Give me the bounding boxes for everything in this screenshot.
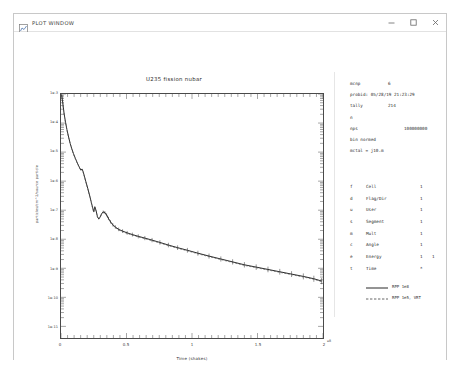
bin-table: fCell1dFlag/Dir1uUser1sSegment1mMult1cAn… [336,184,448,278]
bin-letter: u [350,207,353,212]
window-controls [380,14,446,31]
bin-value-2: 1 [432,254,435,259]
info-key: mcnp [350,82,360,86]
y-tick-label: 1e-8 [32,237,58,241]
y-tick-label: 1e-3 [32,91,58,95]
bin-letter: m [350,231,353,236]
bin-table-row[interactable]: sSegment1 [336,219,448,231]
x-tick-label: 1.5 [255,342,261,347]
panel-divider [334,72,335,317]
bin-name: Segment [366,219,384,224]
chart-title: U235 fission nubar [14,76,334,82]
client-area: U235 fission nubar particles/cm^2/source… [14,32,446,361]
plot-window: PLOT WINDOW U23 [13,13,447,360]
bin-table-row[interactable]: eEnergy11 [336,254,448,266]
y-tick-label: 1e-11 [32,325,58,329]
y-tick-label: 1e-7 [32,208,58,212]
bin-letter: e [350,254,353,259]
info-text: probid: 05/28/19 21:23:29 [350,93,415,97]
x-axis-title: Time (shakes) [60,356,324,361]
chart-plot-area [61,94,323,338]
legend-label: RPP 1e5, VRT [392,295,421,300]
bin-letter: s [350,219,353,224]
bin-value-1: 1 [420,254,423,259]
x-axis-exponent: e8 [327,339,331,343]
bin-table-row[interactable]: dFlag/Dir1 [336,196,448,208]
info-key: tally [350,104,363,108]
x-tick-label: 0.5 [123,342,129,347]
bin-name: Cell [366,184,376,189]
title-bar: PLOT WINDOW [14,14,446,32]
y-tick-label: 1e-9 [32,267,58,271]
bin-name: Energy [366,254,382,259]
bin-table-row[interactable]: uUser1 [336,207,448,219]
bin-value-1: 1 [420,231,423,236]
info-value: 6 [388,82,391,86]
legend-label: RPP 1e8 [392,284,409,289]
info-value: 100000000 [404,127,427,131]
close-icon[interactable] [424,14,446,31]
bin-letter: f [350,184,353,189]
bin-name: Flag/Dir [366,196,387,201]
bin-value-1: * [420,266,423,271]
bin-table-row[interactable]: fCell1 [336,184,448,196]
info-row: tally214 [336,104,448,115]
y-axis-tick-labels: 1e-31e-41e-51e-61e-71e-81e-91e-101e-11 [28,93,58,339]
bin-value-1: 1 [420,184,423,189]
legend-item[interactable]: RPP 1e8 [336,284,448,295]
legend-item[interactable]: RPP 1e5, VRT [336,295,448,306]
bin-name: Time [366,266,376,271]
y-tick-label: 1e-5 [32,149,58,153]
plot-axes-frame [60,93,324,339]
bin-table-row[interactable]: tTime* [336,266,448,278]
info-key: nps [350,127,358,131]
bin-name: Angle [366,242,379,247]
info-value: 214 [388,104,396,108]
legend-line-swatch [366,287,388,289]
info-text: bin normed [350,138,376,142]
bin-letter: t [350,266,353,271]
bin-value-1: 1 [420,242,423,247]
x-tick-label: 2 [323,342,326,347]
legend-line-swatch [366,298,388,300]
bin-name: Mult [366,231,376,236]
x-axis-tick-labels: 00.511.52 [60,342,332,354]
y-tick-label: 1e-4 [32,120,58,124]
maximize-icon[interactable] [402,14,424,31]
tally-info-panel: mcnp6probid: 05/28/19 21:23:29tally214nn… [336,82,448,160]
minimize-icon[interactable] [380,14,402,31]
bin-letter: c [350,242,353,247]
info-text: n [350,116,353,120]
chart-series-line [62,95,322,281]
y-tick-label: 1e-10 [32,296,58,300]
chart-series-line [62,95,322,281]
bin-letter: d [350,196,353,201]
bin-value-1: 1 [420,219,423,224]
x-tick-label: 1 [191,342,194,347]
bin-table-row[interactable]: mMult1 [336,231,448,243]
bin-name: User [366,207,376,212]
x-tick-label: 0 [59,342,62,347]
plot-window-icon [19,18,28,27]
info-text: mctal = j10.m [350,149,384,153]
chart-legend: RPP 1e8RPP 1e5, VRT [336,284,448,306]
info-row: mctal = j10.m [336,149,448,160]
y-tick-label: 1e-6 [32,179,58,183]
bin-value-1: 1 [420,207,423,212]
window-title: PLOT WINDOW [32,20,74,26]
plot-panel: U235 fission nubar particles/cm^2/source… [14,32,334,361]
bin-value-1: 1 [420,196,423,201]
bin-table-row[interactable]: cAngle1 [336,242,448,254]
